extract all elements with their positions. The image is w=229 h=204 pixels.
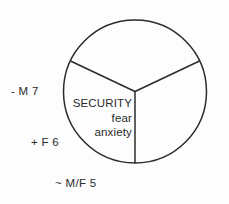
segment-label-mf-5: ~ M/F 5 [55, 177, 96, 190]
segment-label-minus-m-7: - M 7 [11, 85, 39, 98]
center-text-anxiety: anxiety [60, 125, 132, 140]
center-text-fear: fear [60, 111, 132, 126]
center-text-block: SECURITY fear anxiety [60, 96, 132, 140]
segment-label-plus-f-6: + F 6 [31, 136, 59, 149]
center-text-security: SECURITY [60, 96, 132, 111]
pie-diagram-figure: SECURITY fear anxiety - M 7 + F 6 ~ M/F … [0, 0, 229, 204]
